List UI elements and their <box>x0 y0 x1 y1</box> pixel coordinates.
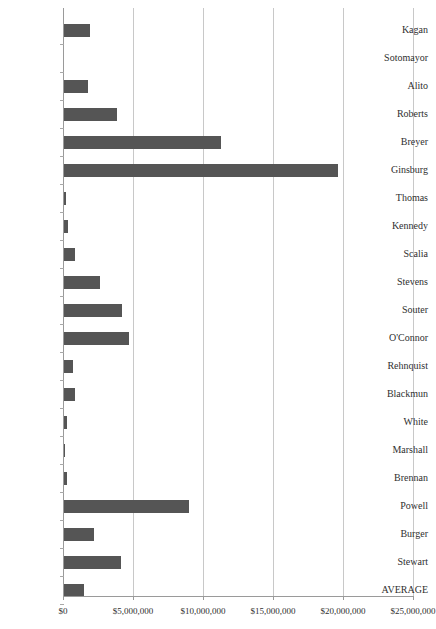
category-label: Powell <box>370 500 428 511</box>
category-tick <box>60 268 64 269</box>
category-tick <box>60 128 64 129</box>
value-tick-label: $5,000,000 <box>113 606 154 617</box>
category-label: White <box>370 416 428 427</box>
category-tick <box>60 548 64 549</box>
category-tick <box>60 184 64 185</box>
category-label: Souter <box>370 304 428 315</box>
value-tick-label: $15,000,000 <box>251 606 296 617</box>
bar <box>64 416 67 429</box>
bar <box>64 556 121 569</box>
bar <box>64 304 122 317</box>
bar <box>64 444 65 457</box>
category-label: Marshall <box>370 444 428 455</box>
bar <box>64 220 68 233</box>
category-label: Rehnquist <box>370 360 428 371</box>
category-axis-line <box>63 8 64 596</box>
bar <box>64 80 88 93</box>
gridline <box>343 8 344 596</box>
bar <box>64 584 84 597</box>
bar <box>64 360 73 373</box>
bar <box>64 248 75 261</box>
category-label: Sotomayor <box>370 52 428 63</box>
gridline <box>203 8 204 596</box>
value-tick-label: $20,000,000 <box>321 606 366 617</box>
category-tick <box>60 520 64 521</box>
category-tick <box>60 324 64 325</box>
category-label: Stevens <box>370 276 428 287</box>
value-tick-label: $0 <box>59 606 68 617</box>
category-tick <box>60 212 64 213</box>
category-tick <box>60 296 64 297</box>
bar <box>64 164 338 177</box>
value-tick <box>63 596 64 600</box>
category-tick <box>60 72 64 73</box>
category-label: Roberts <box>370 108 428 119</box>
category-tick <box>60 464 64 465</box>
category-tick <box>60 380 64 381</box>
category-tick <box>60 240 64 241</box>
category-label: Brennan <box>370 472 428 483</box>
gridline <box>273 8 274 596</box>
category-tick <box>60 156 64 157</box>
category-tick <box>60 576 64 577</box>
bar <box>64 192 66 205</box>
category-tick <box>60 492 64 493</box>
category-label: Scalia <box>370 248 428 259</box>
category-label: Kagan <box>370 24 428 35</box>
value-tick <box>413 596 414 600</box>
category-label: Thomas <box>370 192 428 203</box>
category-tick <box>60 352 64 353</box>
bar <box>64 332 129 345</box>
value-tick-label: $25,000,000 <box>391 606 436 617</box>
value-tick <box>343 596 344 600</box>
category-label: Ginsburg <box>370 164 428 175</box>
value-tick <box>273 596 274 600</box>
category-label: O'Connor <box>370 332 428 343</box>
bar <box>64 388 75 401</box>
category-label: Alito <box>370 80 428 91</box>
category-tick <box>60 100 64 101</box>
value-tick <box>203 596 204 600</box>
bar <box>64 276 100 289</box>
plot-area <box>63 8 413 596</box>
value-tick <box>133 596 134 600</box>
category-label: Stewart <box>370 556 428 567</box>
bar <box>64 500 189 513</box>
category-tick <box>60 408 64 409</box>
category-label: Breyer <box>370 136 428 147</box>
value-tick-label: $10,000,000 <box>181 606 226 617</box>
category-tick <box>60 44 64 45</box>
bar <box>64 472 67 485</box>
bar <box>64 108 117 121</box>
category-label: AVERAGE <box>370 584 428 595</box>
bar <box>64 136 221 149</box>
category-tick <box>60 604 64 605</box>
category-tick <box>60 436 64 437</box>
category-label: Burger <box>370 528 428 539</box>
bar <box>64 528 94 541</box>
value-axis-line <box>63 596 413 597</box>
category-label: Blackmun <box>370 388 428 399</box>
category-label: Kennedy <box>370 220 428 231</box>
bar <box>64 24 90 37</box>
